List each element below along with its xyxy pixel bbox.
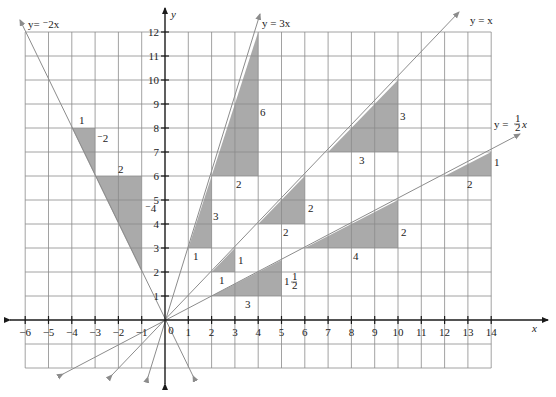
svg-text:−1: −1	[136, 326, 148, 338]
svg-text:0: 0	[168, 324, 174, 336]
svg-text:1: 1	[193, 250, 199, 262]
svg-text:12: 12	[148, 26, 159, 38]
label-y-x: y = x	[470, 14, 493, 26]
svg-text:2: 2	[515, 121, 521, 133]
svg-text:5: 5	[279, 326, 285, 338]
triangle-3x-small	[188, 176, 211, 248]
svg-text:6: 6	[260, 106, 266, 118]
svg-text:8: 8	[349, 326, 355, 338]
svg-text:4: 4	[154, 218, 160, 230]
coordinate-plane: x y −6 −5 −4 −3 −2 −1 0 1 2 3 4 5 6 7 8 …	[0, 0, 556, 397]
svg-text:⁻2: ⁻2	[97, 132, 108, 144]
svg-text:1: 1	[79, 114, 85, 126]
svg-text:8: 8	[154, 122, 160, 134]
svg-text:4: 4	[255, 326, 261, 338]
svg-text:−5: −5	[43, 326, 55, 338]
svg-text:1: 1	[186, 326, 192, 338]
svg-text:10: 10	[148, 74, 160, 86]
svg-text:1: 1	[494, 156, 500, 168]
svg-text:1: 1	[219, 274, 225, 286]
svg-text:1: 1	[284, 275, 290, 287]
label-y-3x: y = 3x	[262, 17, 291, 29]
svg-text:4: 4	[353, 250, 359, 262]
label-y-half-x: y = 1 2 x	[494, 112, 527, 133]
svg-text:2: 2	[283, 226, 289, 238]
svg-text:11: 11	[416, 326, 427, 338]
svg-text:−4: −4	[66, 326, 78, 338]
svg-text:1: 1	[154, 290, 160, 302]
svg-text:2: 2	[401, 226, 407, 238]
svg-text:2: 2	[118, 163, 124, 175]
svg-text:9: 9	[372, 326, 378, 338]
line-y-half-x	[63, 134, 520, 374]
svg-text:2: 2	[154, 266, 160, 278]
triangle-x-large	[328, 80, 398, 152]
svg-text:2: 2	[209, 326, 215, 338]
svg-text:6: 6	[302, 326, 308, 338]
svg-text:1: 1	[238, 254, 244, 266]
svg-text:3: 3	[154, 242, 160, 254]
x-axis-label: x	[531, 322, 537, 334]
svg-text:2: 2	[236, 178, 242, 190]
triangle-x-small	[212, 248, 235, 272]
svg-text:2: 2	[308, 202, 314, 214]
svg-text:13: 13	[462, 326, 474, 338]
svg-text:2: 2	[467, 178, 473, 190]
svg-text:3: 3	[359, 154, 365, 166]
svg-text:14: 14	[486, 326, 498, 338]
svg-text:3: 3	[213, 210, 219, 222]
svg-text:−6: −6	[19, 326, 31, 338]
x-tick-labels: −6 −5 −4 −3 −2 −1 0 1 2 3 4 5 6 7 8 9 10…	[19, 324, 497, 338]
svg-text:11: 11	[148, 50, 159, 62]
svg-text:3: 3	[232, 326, 238, 338]
svg-text:y =: y =	[494, 118, 508, 130]
svg-text:−2: −2	[113, 326, 125, 338]
svg-text:2: 2	[292, 279, 298, 291]
svg-text:−3: −3	[89, 326, 101, 338]
svg-text:3: 3	[245, 298, 251, 310]
y-axis-label: y	[170, 8, 176, 20]
svg-text:x: x	[521, 118, 527, 130]
svg-text:7: 7	[325, 326, 331, 338]
line-y-neg2x	[20, 20, 193, 376]
svg-text:9: 9	[154, 98, 160, 110]
svg-text:⁻4: ⁻4	[145, 202, 157, 214]
svg-text:3: 3	[400, 110, 406, 122]
slope-diagram: x y −6 −5 −4 −3 −2 −1 0 1 2 3 4 5 6 7 8 …	[0, 0, 556, 397]
svg-text:12: 12	[439, 326, 450, 338]
svg-text:7: 7	[154, 146, 160, 158]
svg-text:6: 6	[154, 170, 160, 182]
svg-text:10: 10	[393, 326, 405, 338]
y-tick-labels: 1 2 3 4 5 6 7 8 9 10 11 12	[148, 26, 160, 302]
label-y-neg2x: y= ⁻2x	[28, 18, 60, 30]
